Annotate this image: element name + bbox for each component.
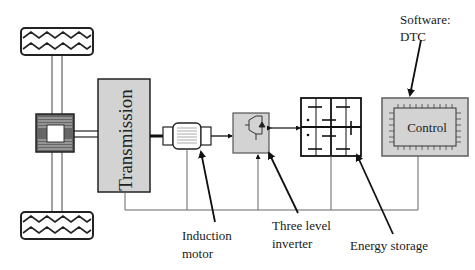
energy-storage-icon bbox=[301, 98, 361, 156]
shaft-diff-transmission bbox=[74, 131, 98, 137]
arrow-inverter bbox=[269, 153, 298, 213]
wheel-bottom-icon bbox=[21, 212, 93, 239]
annotation-motor-line2: motor bbox=[182, 246, 213, 262]
arrow-software bbox=[410, 40, 421, 95]
annotation-software-line2: DTC bbox=[400, 29, 426, 45]
annotation-energy-storage: Energy storage bbox=[350, 238, 428, 254]
control-label: Control bbox=[394, 117, 460, 139]
inverter-icon bbox=[233, 113, 269, 153]
wheel-top-icon bbox=[21, 28, 93, 55]
transmission-label-box: Transmission bbox=[102, 82, 150, 198]
arrow-storage bbox=[357, 155, 393, 234]
induction-motor-icon bbox=[163, 123, 211, 149]
annotation-motor-line1: Induction bbox=[182, 228, 232, 244]
differential-icon bbox=[36, 114, 74, 152]
annotation-software-line1: Software: bbox=[400, 12, 451, 28]
annotation-inverter-line2: inverter bbox=[272, 236, 312, 252]
transmission-label: Transmission bbox=[115, 89, 137, 191]
arrow-motor bbox=[201, 152, 215, 222]
annotation-inverter-line1: Three level bbox=[272, 218, 331, 234]
